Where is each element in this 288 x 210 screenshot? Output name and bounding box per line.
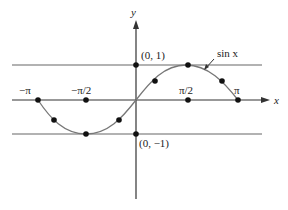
- sine-graph: y x (0, 1) (0, −1) −π −π/2 π/2 π sin x: [0, 0, 288, 210]
- curve-dot: [83, 131, 89, 137]
- y-axis-arrow-icon: [133, 20, 139, 29]
- tick-label-pi-half: π/2: [179, 84, 193, 96]
- dot-pi-half: [185, 97, 191, 103]
- y-axis-label: y: [130, 6, 136, 18]
- dot-neg-pi: [35, 97, 41, 103]
- curve-dot: [185, 62, 191, 68]
- curve-dot: [116, 117, 122, 123]
- point-label-top: (0, 1): [141, 49, 165, 62]
- x-axis-arrow-icon: [261, 97, 270, 103]
- curve-label: sin x: [217, 47, 239, 59]
- curve-dot: [152, 78, 158, 84]
- dot-pi: [235, 97, 241, 103]
- curve-dot: [51, 117, 57, 123]
- dot-0-neg1: [133, 131, 139, 137]
- sine-graph-figure: y x (0, 1) (0, −1) −π −π/2 π/2 π sin x: [0, 0, 288, 210]
- tick-label-pi: π: [234, 84, 240, 96]
- tick-label-neg-pi-half: −π/2: [71, 84, 91, 96]
- dot-0-1: [133, 62, 139, 68]
- curve-dot: [219, 78, 225, 84]
- point-label-bottom: (0, −1): [139, 137, 169, 150]
- x-axis-label: x: [273, 94, 279, 106]
- tick-label-neg-pi: −π: [19, 84, 31, 96]
- dot-neg-pi-half: [83, 97, 89, 103]
